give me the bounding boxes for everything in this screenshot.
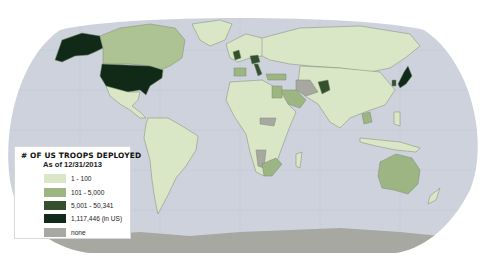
swatch-us (44, 214, 66, 223)
country-canada (100, 24, 185, 70)
swatch-101-5000 (44, 188, 66, 197)
legend-item-5001-50341: 5,001 - 50,341 (21, 199, 124, 212)
legend-title: # OF US TROOPS DEPLOYED (21, 151, 124, 160)
legend-label: 5,001 - 50,341 (71, 202, 114, 209)
swatch-5001-50341 (44, 201, 66, 210)
legend-label: 1,117,446 (in US) (71, 215, 122, 222)
country-spain (234, 68, 246, 76)
country-egypt (272, 86, 282, 98)
swatch-1-100 (44, 174, 66, 183)
swatch-none (44, 228, 66, 237)
legend-label: 101 - 5,000 (71, 189, 104, 196)
legend-item-1-100: 1 - 100 (21, 172, 124, 185)
country-philippines (394, 112, 400, 126)
legend: # OF US TROOPS DEPLOYED As of 12/31/2013… (14, 146, 131, 239)
country-thailand (362, 112, 372, 124)
legend-item-us: 1,117,446 (in US) (21, 212, 124, 225)
legend-item-101-5000: 101 - 5,000 (21, 185, 124, 198)
country-turkey (266, 74, 286, 80)
legend-item-none: none (21, 226, 124, 239)
legend-label: none (71, 229, 86, 236)
legend-label: 1 - 100 (71, 175, 92, 182)
country-south-korea (392, 80, 396, 86)
legend-subtitle: As of 12/31/2013 (21, 160, 124, 170)
